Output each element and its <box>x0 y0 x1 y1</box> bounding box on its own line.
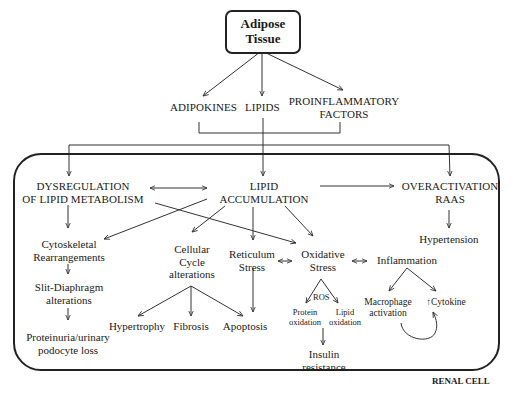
slit-line2: alterations <box>30 294 108 307</box>
cytokine-label: ↑Cytokine <box>420 297 472 308</box>
dysregulation-line1: DYSREGULATION <box>18 180 148 193</box>
insulin-resistance-label: Insulin resistance <box>298 348 350 373</box>
lipid-acc-line2: ACCUMULATION <box>210 193 318 206</box>
proteinuria-label: Proteinuria/urinary podocyte loss <box>22 331 114 356</box>
macrophage-line2: activation <box>358 308 418 319</box>
cytoskeletal-line2: Rearrangements <box>28 251 110 264</box>
macrophage-activation-label: Macrophage activation <box>358 297 418 319</box>
dysregulation-label: DYSREGULATION OF LIPID METABOLISM <box>18 180 148 205</box>
protein-ox-line2: oxidation <box>286 318 324 328</box>
insulin-line2: resistance <box>298 361 350 374</box>
reticulum-line2: Stress <box>226 261 278 274</box>
raas-line1: OVERACTIVATION <box>398 180 502 193</box>
proteinuria-line2: podocyte loss <box>22 344 114 357</box>
inflammation-label: Inflammation <box>374 254 440 267</box>
cellcycle-line2: Cycle <box>164 256 220 269</box>
hypertrophy-label: Hypertrophy <box>107 320 167 333</box>
adipose-tissue-box: Adipose Tissue <box>225 10 301 54</box>
raas-line2: RAAS <box>398 193 502 206</box>
renal-cell-caption: RENAL CELL <box>432 376 490 386</box>
cellular-cycle-label: Cellular Cycle alterations <box>164 243 220 281</box>
proinflammatory-line2: FACTORS <box>288 108 400 121</box>
proteinuria-line1: Proteinuria/urinary <box>22 331 114 344</box>
adipose-label: Adipose <box>241 17 286 32</box>
protein-oxidation-label: Protein oxidation <box>286 308 324 328</box>
apoptosis-label: Apoptosis <box>220 320 270 333</box>
insulin-line1: Insulin <box>298 348 350 361</box>
proinflammatory-factors-label: PROINFLAMMATORY FACTORS <box>288 95 400 120</box>
dysregulation-line2: OF LIPID METABOLISM <box>18 193 148 206</box>
reticulum-line1: Reticulum <box>226 248 278 261</box>
slit-diaphragm-label: Slit-Diaphragm alterations <box>30 281 108 306</box>
slit-line1: Slit-Diaphragm <box>30 281 108 294</box>
cellcycle-line3: alterations <box>164 268 220 281</box>
oxidative-stress-label: Oxidative Stress <box>295 248 351 273</box>
lipid-acc-line1: LIPID <box>210 180 318 193</box>
macrophage-line1: Macrophage <box>358 297 418 308</box>
lipids-label: LIPIDS <box>245 101 280 114</box>
lipid-ox-line2: oxidation <box>326 318 364 328</box>
hypertension-label: Hypertension <box>418 233 480 246</box>
reticulum-stress-label: Reticulum Stress <box>226 248 278 273</box>
cellcycle-line1: Cellular <box>164 243 220 256</box>
lipid-accumulation-label: LIPID ACCUMULATION <box>210 180 318 205</box>
ros-label: ROS <box>313 293 330 303</box>
cytoskeletal-label: Cytoskeletal Rearrangements <box>28 238 110 263</box>
oxidative-line2: Stress <box>295 261 351 274</box>
proinflammatory-line1: PROINFLAMMATORY <box>288 95 400 108</box>
oxidative-line1: Oxidative <box>295 248 351 261</box>
cytoskeletal-line1: Cytoskeletal <box>28 238 110 251</box>
fibrosis-label: Fibrosis <box>172 320 210 333</box>
tissue-label: Tissue <box>241 32 286 47</box>
adipokines-label: ADIPOKINES <box>170 101 237 114</box>
overactivation-raas-label: OVERACTIVATION RAAS <box>398 180 502 205</box>
